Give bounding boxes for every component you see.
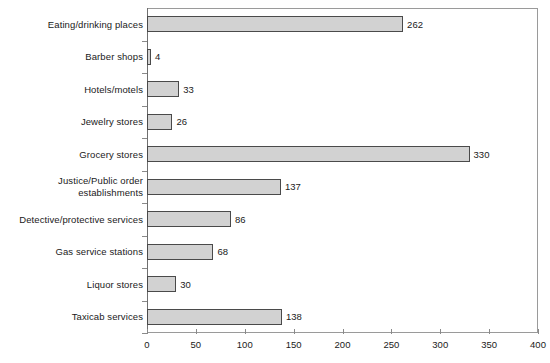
value-axis-tick-label: 0: [117, 339, 177, 351]
bar-value-label: 137: [285, 181, 301, 192]
category-label: Liquor stores: [0, 279, 143, 291]
bar-row: Eating/drinking places262: [0, 8, 550, 41]
bar: [147, 244, 213, 260]
bar: [147, 146, 470, 162]
category-label: Eating/drinking places: [0, 19, 143, 31]
bar-value-label: 33: [183, 84, 194, 95]
bar-value-label: 86: [235, 214, 246, 225]
bar-and-value: 330: [147, 146, 489, 162]
bar-and-value: 30: [147, 276, 191, 292]
bar-and-value: 33: [147, 81, 194, 97]
bar-rows: Eating/drinking places262Barber shops4Ho…: [0, 8, 550, 333]
bar: [147, 81, 179, 97]
bar: [147, 16, 403, 32]
bar-value-label: 138: [286, 311, 302, 322]
bar-row: Detective/protective services86: [0, 203, 550, 236]
value-axis-tick-label: 150: [264, 339, 324, 351]
bar-and-value: 262: [147, 16, 423, 32]
category-label: Justice/Public order establishments: [0, 175, 143, 198]
category-axis-tick: [142, 138, 147, 139]
category-label: Gas service stations: [0, 246, 143, 258]
category-axis-tick: [142, 203, 147, 204]
category-axis-tick: [142, 73, 147, 74]
category-label: Grocery stores: [0, 149, 143, 161]
bar-value-label: 330: [474, 149, 490, 160]
bar-row: Gas service stations68: [0, 236, 550, 269]
category-axis-tick: [142, 106, 147, 107]
bar-row: Hotels/motels33: [0, 73, 550, 106]
value-axis-tick-label: 200: [313, 339, 373, 351]
bar-and-value: 86: [147, 211, 246, 227]
bar-row: Barber shops4: [0, 41, 550, 74]
category-axis-tick: [142, 41, 147, 42]
bar-and-value: 26: [147, 114, 187, 130]
bar: [147, 49, 151, 65]
bar: [147, 276, 176, 292]
bar-value-label: 262: [407, 19, 423, 30]
value-axis-tick-label: 400: [508, 339, 550, 351]
bar-value-label: 4: [155, 51, 160, 62]
category-label: Jewelry stores: [0, 116, 143, 128]
value-axis-tick-label: 300: [410, 339, 470, 351]
value-axis-tick-label: 350: [459, 339, 519, 351]
bar-and-value: 138: [147, 309, 302, 325]
bar-row: Liquor stores30: [0, 268, 550, 301]
bar-row: Jewelry stores26: [0, 106, 550, 139]
category-label: Detective/protective services: [0, 214, 143, 226]
bar-row: Justice/Public order establishments137: [0, 171, 550, 204]
value-axis-tick-label: 100: [215, 339, 275, 351]
bar-value-label: 26: [176, 116, 187, 127]
bar: [147, 211, 231, 227]
bar-and-value: 4: [147, 49, 160, 65]
bar-row: Taxicab services138: [0, 301, 550, 334]
category-axis-tick: [142, 301, 147, 302]
category-label: Taxicab services: [0, 311, 143, 323]
bar: [147, 309, 282, 325]
bar: [147, 179, 281, 195]
category-axis-tick: [142, 236, 147, 237]
bar-and-value: 137: [147, 179, 301, 195]
category-axis-tick: [142, 333, 147, 334]
category-label: Hotels/motels: [0, 84, 143, 96]
bar-value-label: 30: [180, 279, 191, 290]
bar-and-value: 68: [147, 244, 228, 260]
bar-row: Grocery stores330: [0, 138, 550, 171]
category-axis-tick: [142, 171, 147, 172]
bar-chart: Eating/drinking places262Barber shops4Ho…: [0, 0, 550, 363]
value-axis-tick-label: 250: [361, 339, 421, 351]
bar: [147, 114, 172, 130]
category-label: Barber shops: [0, 51, 143, 63]
bar-value-label: 68: [217, 246, 228, 257]
category-axis-tick: [142, 268, 147, 269]
value-axis-tick-label: 50: [166, 339, 226, 351]
